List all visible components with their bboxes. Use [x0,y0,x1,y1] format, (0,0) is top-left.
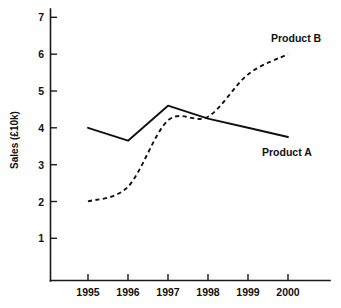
y-axis-ticks: 7 6 5 4 3 2 1 [38,11,57,244]
line-chart-figure: Sales (£10k) 7 6 5 4 3 2 1 1995 [0,0,341,308]
y-tick-label-3: 3 [38,159,44,171]
chart-canvas: Sales (£10k) 7 6 5 4 3 2 1 1995 [0,0,341,308]
y-tick-label-1: 1 [38,232,44,244]
series-line-product-a [88,106,288,141]
x-tick-label-1995: 1995 [76,286,100,298]
x-tick-label-1999: 1999 [236,286,260,298]
x-tick-label-1997: 1997 [156,286,180,298]
y-tick-label-6: 6 [38,48,44,60]
x-tick-label-1998: 1998 [196,286,220,298]
y-tick-label-7: 7 [38,11,44,23]
y-tick-label-2: 2 [38,196,44,208]
series-label-product-a: Product A [262,146,312,158]
series-line-product-b [88,54,288,201]
series-label-product-b: Product B [271,32,322,44]
y-tick-label-4: 4 [38,122,44,134]
y-axis-title: Sales (£10k) [9,111,20,169]
x-axis-ticks: 1995 1996 1997 1998 1999 2000 [76,274,300,298]
x-tick-label-2000: 2000 [276,286,300,298]
y-tick-label-5: 5 [38,85,44,97]
x-tick-label-1996: 1996 [116,286,140,298]
